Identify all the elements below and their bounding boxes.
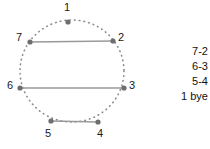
- pairing-item: 7-2: [152, 44, 208, 59]
- pairings-list: 7-2 6-3 5-4 1 bye: [152, 44, 208, 104]
- node-dot-1: [65, 19, 70, 24]
- node-dot-3: [121, 85, 126, 90]
- node-dot-5: [48, 118, 53, 123]
- pairing-item: 5-4: [152, 74, 208, 89]
- round-robin-diagram: 1 2 3 4 5 6 7: [0, 0, 145, 149]
- node-dot-4: [95, 119, 100, 124]
- chord-7-2: [30, 41, 113, 42]
- node-dot-6: [17, 85, 22, 90]
- circle-graph-svg: [0, 0, 145, 149]
- pairing-item: 6-3: [152, 59, 208, 74]
- node-label-1: 1: [64, 2, 70, 13]
- chords-group: [20, 41, 124, 122]
- node-label-2: 2: [118, 32, 124, 43]
- dotted-circle-outline: [20, 20, 124, 122]
- node-label-5: 5: [45, 128, 51, 139]
- nodes-group: [17, 19, 126, 124]
- chord-5-4: [51, 121, 98, 122]
- node-label-3: 3: [129, 80, 135, 91]
- node-label-7: 7: [16, 32, 22, 43]
- node-label-4: 4: [97, 128, 103, 139]
- node-dot-2: [110, 38, 115, 43]
- round-robin-schedule-figure: 1 2 3 4 5 6 7 7-2 6-3 5-4 1 bye: [0, 0, 210, 149]
- node-dot-7: [27, 39, 32, 44]
- pairing-item: 1 bye: [152, 89, 208, 104]
- node-label-6: 6: [7, 80, 13, 91]
